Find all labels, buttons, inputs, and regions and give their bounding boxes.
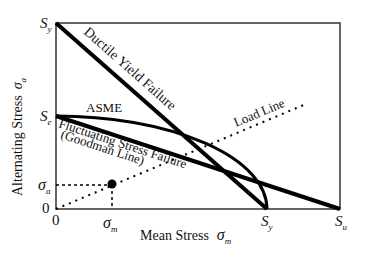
y-tick-se: Se [40, 108, 52, 127]
asme-label: ASME [86, 100, 122, 115]
y-tick-sy: Sy [40, 15, 52, 34]
plot-frame [56, 23, 340, 209]
x-tick-zero: 0 [52, 212, 60, 228]
x-tick-sy: Sy [261, 213, 273, 232]
x-tick-su: Su [335, 213, 348, 232]
x-axis-label: Mean Stressσm [140, 226, 232, 246]
y-axis-label: Alternating Stressσa [10, 77, 28, 196]
fatigue-diagram: Sy Se σa 0 0 σm Sy Su Alternating Stress… [0, 0, 365, 254]
operating-point [108, 180, 117, 189]
x-tick-sigma-m: σm [103, 214, 118, 234]
load-line-label: Load Line [231, 95, 287, 130]
y-tick-sigma-a: σa [38, 176, 51, 196]
y-tick-zero: 0 [42, 200, 50, 216]
